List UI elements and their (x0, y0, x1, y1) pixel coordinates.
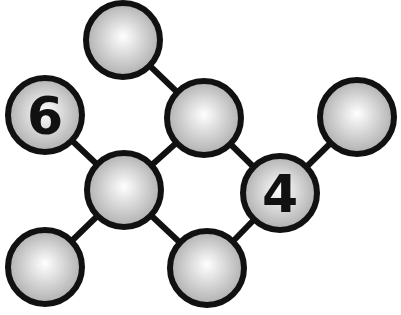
nodes-layer: 64 (8, 3, 394, 305)
node-circle (320, 80, 394, 154)
node-n_right (320, 80, 394, 154)
node-circle (87, 153, 161, 227)
node-circle (86, 3, 160, 77)
node-label: 4 (262, 164, 298, 224)
node-n_botleft (8, 230, 82, 304)
node-label: 6 (27, 86, 63, 146)
node-n_four: 4 (243, 156, 317, 230)
node-n_botmid (170, 231, 244, 305)
node-circle (170, 231, 244, 305)
node-circle (167, 81, 241, 155)
node-n_six: 6 (8, 78, 82, 152)
node-n_center (87, 153, 161, 227)
graph-diagram: 64 (0, 0, 401, 315)
node-n_upmid (167, 81, 241, 155)
node-circle (8, 230, 82, 304)
node-n_top (86, 3, 160, 77)
